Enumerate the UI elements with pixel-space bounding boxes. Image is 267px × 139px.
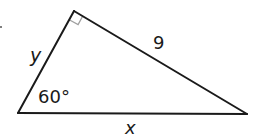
label-y: y — [29, 44, 42, 66]
label-angle-60: 60° — [38, 86, 70, 107]
label-hypotenuse: 9 — [153, 32, 164, 53]
side-9 — [74, 11, 247, 114]
stray-dot — [0, 26, 2, 28]
triangle-diagram: y 9 60° x — [0, 0, 267, 139]
label-x: x — [124, 117, 136, 138]
side-x — [18, 113, 247, 114]
